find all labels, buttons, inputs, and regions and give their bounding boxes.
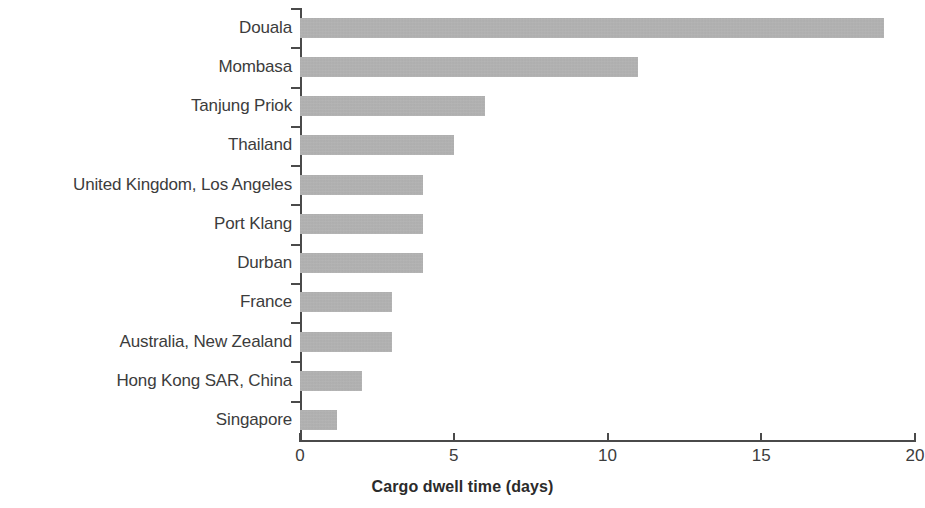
y-axis-tick-label: Tanjung Priok	[0, 87, 292, 126]
x-axis-tick-mark	[607, 433, 609, 442]
bar-hong-kong-sar-china	[300, 371, 362, 391]
y-axis-tick-label-text: Port Klang	[214, 214, 292, 234]
bar-united-kingdom-los-angeles	[300, 175, 423, 195]
y-axis-tick-label: Mombasa	[0, 47, 292, 86]
bar-row	[300, 204, 915, 243]
bar-row	[300, 47, 915, 86]
x-axis-tick-label: 0	[295, 446, 304, 466]
y-axis-tick-mark	[291, 283, 300, 285]
bar-durban	[300, 253, 423, 273]
y-axis-tick-label: Australia, New Zealand	[0, 322, 292, 361]
y-axis-tick-label-text: Thailand	[228, 135, 292, 155]
y-axis-tick-label-text: France	[240, 292, 292, 312]
x-axis-tick-mark	[299, 433, 301, 442]
bar-singapore	[300, 410, 337, 430]
y-axis-tick-label-text: Singapore	[216, 410, 292, 430]
x-axis-tick-mark	[914, 433, 916, 442]
bar-row	[300, 322, 915, 361]
x-axis-tick-mark	[453, 433, 455, 442]
bar-row	[300, 8, 915, 47]
x-axis-tick-marks	[300, 433, 915, 442]
x-axis-tick-label: 20	[906, 446, 925, 466]
y-axis-tick-mark	[291, 8, 300, 10]
bar-france	[300, 292, 392, 312]
y-axis-tick-label-text: Durban	[237, 253, 292, 273]
bar-thailand	[300, 135, 454, 155]
y-axis-tick-label: Thailand	[0, 126, 292, 165]
bar-row	[300, 361, 915, 400]
y-axis-tick-mark	[291, 361, 300, 363]
x-axis-tick-label: 5	[449, 446, 458, 466]
bar-mombasa	[300, 57, 638, 77]
y-axis-tick-label-text: Douala	[239, 18, 292, 38]
bar-row	[300, 244, 915, 283]
x-axis-tick-label: 15	[752, 446, 771, 466]
y-axis-tick-label: Durban	[0, 244, 292, 283]
x-axis-tick-labels: 05101520	[300, 446, 915, 472]
y-axis-tick-mark	[291, 204, 300, 206]
y-axis-tick-mark	[291, 87, 300, 89]
y-axis-tick-mark	[291, 165, 300, 167]
x-axis-tick-mark	[760, 433, 762, 442]
y-axis-tick-label: Hong Kong SAR, China	[0, 361, 292, 400]
bar-australia-new-zealand	[300, 332, 392, 352]
y-axis-tick-label: Douala	[0, 8, 292, 47]
y-axis-tick-mark	[291, 244, 300, 246]
y-axis-tick-mark	[291, 322, 300, 324]
y-axis-tick-mark	[291, 47, 300, 49]
y-axis-category-labels: Douala Mombasa Tanjung Priok Thailand Un…	[0, 8, 292, 440]
y-axis-tick-mark	[291, 401, 300, 403]
bar-row	[300, 283, 915, 322]
y-axis-tick-mark	[291, 126, 300, 128]
bar-row	[300, 87, 915, 126]
bar-rows	[300, 8, 915, 440]
y-axis-tick-label-text: United Kingdom, Los Angeles	[73, 175, 292, 195]
bar-row	[300, 126, 915, 165]
y-axis-tick-label-text: Mombasa	[218, 57, 292, 77]
y-axis-tick-label: France	[0, 283, 292, 322]
x-axis-tick-label: 10	[598, 446, 617, 466]
x-axis-title: Cargo dwell time (days)	[0, 478, 925, 496]
y-axis-tick-label: Port Klang	[0, 204, 292, 243]
bar-port-klang	[300, 214, 423, 234]
y-axis-tick-label: Singapore	[0, 401, 292, 440]
bar-douala	[300, 18, 884, 38]
y-axis-tick-label-text: Tanjung Priok	[191, 96, 292, 116]
y-axis-tick-label-text: Hong Kong SAR, China	[116, 371, 292, 391]
bar-tanjung-priok	[300, 96, 485, 116]
y-axis-tick-label-text: Australia, New Zealand	[120, 332, 292, 352]
plot-area	[300, 8, 915, 440]
bar-row	[300, 165, 915, 204]
y-axis-tick-label: United Kingdom, Los Angeles	[0, 165, 292, 204]
bar-chart: Douala Mombasa Tanjung Priok Thailand Un…	[0, 0, 925, 508]
